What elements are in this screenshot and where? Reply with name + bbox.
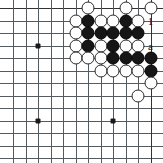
black-stone	[107, 39, 120, 52]
white-stone	[69, 52, 82, 65]
black-stone	[107, 52, 120, 65]
white-stone	[94, 14, 107, 27]
white-stone	[132, 14, 145, 27]
white-stone	[94, 39, 107, 52]
white-stone	[144, 77, 157, 90]
white-stone	[132, 64, 145, 77]
star-point-0	[36, 43, 41, 48]
white-stone	[107, 64, 120, 77]
black-stone	[144, 52, 157, 65]
white-stone	[119, 2, 132, 15]
black-stone	[82, 27, 95, 40]
white-stone	[82, 2, 95, 15]
white-stone	[144, 2, 157, 15]
white-stone	[82, 52, 95, 65]
go-board-diagram: 1a	[0, 0, 163, 163]
black-stone	[132, 27, 145, 40]
star-point-2	[111, 118, 116, 123]
grid-line-vertical-0	[13, 0, 14, 163]
white-stone	[119, 64, 132, 77]
grid-line-vertical-2	[38, 0, 39, 163]
black-stone	[132, 52, 145, 65]
white-stone	[94, 64, 107, 77]
black-stone	[82, 14, 95, 27]
grid-line-vertical-1	[26, 0, 27, 163]
black-stone	[107, 27, 120, 40]
white-stone	[94, 52, 107, 65]
black-stone	[82, 39, 95, 52]
white-stone	[132, 89, 145, 102]
black-stone	[119, 14, 132, 27]
white-stone	[69, 14, 82, 27]
white-stone	[69, 39, 82, 52]
black-stone	[94, 27, 107, 40]
move-label-1: 1	[148, 15, 154, 26]
grid-line-vertical-4	[63, 0, 64, 163]
black-stone	[119, 52, 132, 65]
white-stone	[132, 39, 145, 52]
white-stone	[107, 14, 120, 27]
black-stone	[144, 64, 157, 77]
white-stone	[69, 27, 82, 40]
black-stone	[119, 27, 132, 40]
grid-line-vertical-3	[51, 0, 52, 163]
star-point-1	[36, 118, 41, 123]
point-label-a: a	[148, 40, 153, 51]
white-stone	[119, 39, 132, 52]
